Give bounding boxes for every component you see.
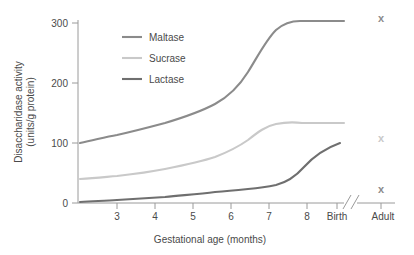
x-tick-label-6: 6 [228, 211, 234, 222]
adult-marker-sucrase-icon: x [378, 132, 385, 144]
chart-legend: Maltase Sucrase Lactase [122, 32, 186, 85]
legend-label-sucrase: Sucrase [149, 53, 186, 64]
y-axis-title-line2: (units/g protein) [25, 77, 36, 146]
series-line-lactase [80, 143, 340, 202]
y-axis-title-line1: Disaccharidase activity [13, 61, 24, 163]
x-tick-label-3: 3 [114, 211, 120, 222]
series-line-sucrase [80, 122, 344, 179]
disaccharidase-activity-chart: 300 200 100 0 3 4 5 6 7 8 Birth Adult Ge… [0, 0, 414, 255]
y-axis-ticks [72, 23, 78, 203]
x-tick-label-8: 8 [304, 211, 310, 222]
legend-label-lactase: Lactase [149, 74, 184, 85]
legend-label-maltase: Maltase [149, 32, 184, 43]
series-line-maltase [80, 21, 344, 143]
axis-break-slash-1 [343, 195, 351, 209]
y-tick-label-100: 100 [51, 138, 68, 149]
chart-canvas: 300 200 100 0 3 4 5 6 7 8 Birth Adult Ge… [0, 0, 414, 255]
adult-marker-lactase-icon: x [378, 183, 385, 195]
x-tick-label-adult: Adult [372, 211, 395, 222]
x-tick-label-birth: Birth [327, 211, 348, 222]
x-axis-title: Gestational age (months) [154, 234, 266, 245]
x-tick-label-4: 4 [152, 211, 158, 222]
y-tick-label-0: 0 [62, 198, 68, 209]
x-tick-label-7: 7 [266, 211, 272, 222]
axis-break-slash-2 [351, 195, 359, 209]
y-tick-label-300: 300 [51, 18, 68, 29]
x-axis-ticks [117, 203, 381, 209]
x-tick-label-5: 5 [190, 211, 196, 222]
adult-marker-maltase-icon: x [378, 12, 385, 24]
y-tick-label-200: 200 [51, 78, 68, 89]
